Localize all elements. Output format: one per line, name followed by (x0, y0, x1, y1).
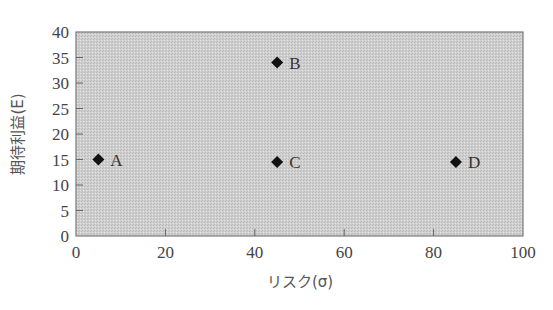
y-tick-label: 5 (61, 202, 70, 221)
y-tick-label: 40 (52, 23, 69, 42)
x-tick-label: 60 (336, 243, 353, 262)
point-label: A (110, 151, 123, 170)
y-axis-title: 期待利益(E) (9, 93, 27, 174)
scatter-chart: 0510152025303540 020406080100 ABCD リスク(σ… (0, 0, 553, 310)
x-tick-label: 20 (157, 243, 174, 262)
x-tick-label: 100 (510, 243, 536, 262)
y-tick-label: 15 (52, 151, 69, 170)
point-label: C (289, 153, 300, 172)
x-tick-label: 80 (425, 243, 442, 262)
y-tick-label: 10 (52, 176, 69, 195)
x-tick-label: 40 (246, 243, 263, 262)
y-tick-label: 35 (52, 49, 69, 68)
point-label: B (289, 54, 300, 73)
x-tick-label: 0 (72, 243, 81, 262)
y-tick-label: 0 (61, 227, 70, 246)
x-axis-title: リスク(σ) (267, 273, 333, 291)
y-tick-label: 20 (52, 125, 69, 144)
y-tick-label: 25 (52, 100, 69, 119)
y-tick-label: 30 (52, 74, 69, 93)
point-label: D (468, 153, 480, 172)
